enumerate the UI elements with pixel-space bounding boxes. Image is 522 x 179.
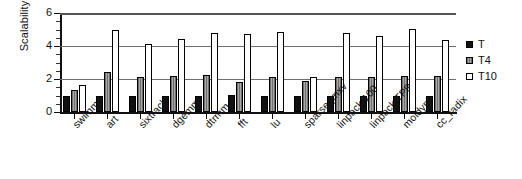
bar-t4-sixtrack bbox=[137, 77, 144, 112]
bar-group bbox=[96, 13, 123, 112]
y-tick-label-2: 2 bbox=[30, 72, 52, 84]
bar-t10-art bbox=[112, 30, 119, 113]
x-label-fft: fft bbox=[235, 116, 250, 131]
y-tick-label-6: 6 bbox=[30, 6, 52, 18]
x-axis-line bbox=[60, 112, 457, 114]
legend-item-t10: T10 bbox=[466, 70, 497, 83]
bar-group bbox=[261, 13, 288, 112]
bar-group bbox=[162, 13, 189, 112]
bar-t10-lu bbox=[277, 32, 284, 112]
legend-swatch-t-icon bbox=[466, 41, 473, 48]
x-label-lu: lu bbox=[268, 116, 282, 130]
bar-group-bars bbox=[228, 13, 255, 112]
bar-group-bars bbox=[426, 13, 453, 112]
bar-group-bars bbox=[162, 13, 189, 112]
bar-group-bars bbox=[195, 13, 222, 112]
bar-group-bars bbox=[261, 13, 288, 112]
bar-t4-fft bbox=[236, 82, 243, 112]
bar-t4-dtrmm bbox=[203, 75, 210, 112]
bar-group bbox=[228, 13, 255, 112]
bar-t4-swimm bbox=[71, 90, 78, 112]
legend-label-t10: T10 bbox=[478, 71, 497, 82]
bar-t4-art bbox=[104, 72, 111, 112]
bar-t-sixtrack bbox=[129, 96, 136, 113]
bar-t4-lu bbox=[269, 77, 276, 112]
bar-t10-moldyn bbox=[409, 29, 416, 112]
bar-group-bars bbox=[63, 13, 90, 112]
bar-t10-dgemm bbox=[178, 39, 185, 112]
bar-t10-dtrmm bbox=[211, 33, 218, 112]
bar-t10-cc-radix bbox=[442, 40, 449, 112]
legend-item-t: T bbox=[466, 38, 497, 51]
scalability-bar-chart: Scalability 6420 swimmartsixtrackdgemmdt… bbox=[0, 0, 522, 179]
bar-t10-linpack-100 bbox=[343, 33, 350, 112]
bar-group bbox=[294, 13, 321, 112]
bar-group bbox=[426, 13, 453, 112]
legend-label-t: T bbox=[478, 39, 485, 50]
y-tick-label-4: 4 bbox=[30, 39, 52, 51]
bar-t-swimm bbox=[63, 96, 70, 113]
bar-group bbox=[129, 13, 156, 112]
legend-swatch-t4-icon bbox=[466, 57, 473, 64]
bar-t4-cc-radix bbox=[434, 76, 441, 112]
bar-group bbox=[195, 13, 222, 112]
legend: TT4T10 bbox=[466, 38, 497, 86]
bar-t4-sparse-mxv bbox=[302, 81, 309, 112]
bar-t10-linpack-tpp bbox=[376, 36, 383, 112]
legend-label-t4: T4 bbox=[478, 55, 491, 66]
bar-t10-fft bbox=[244, 34, 251, 112]
legend-swatch-t10-icon bbox=[466, 73, 473, 80]
bar-group-bars bbox=[96, 13, 123, 112]
bar-t-sparse-mxv bbox=[294, 96, 301, 113]
x-label-art: art bbox=[103, 113, 120, 130]
bar-t4-dgemm bbox=[170, 76, 177, 112]
bar-t10-sixtrack bbox=[145, 44, 152, 112]
bar-group-bars bbox=[129, 13, 156, 112]
bar-group-bars bbox=[294, 13, 321, 112]
bar-group bbox=[63, 13, 90, 112]
legend-item-t4: T4 bbox=[466, 54, 497, 67]
bar-t-lu bbox=[261, 96, 268, 113]
y-tick-label-0: 0 bbox=[30, 105, 52, 117]
